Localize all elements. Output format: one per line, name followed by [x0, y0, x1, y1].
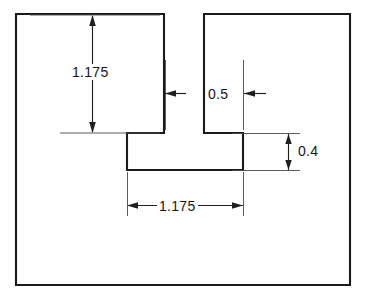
dim-arrow-pocket-depth-bottom: [285, 160, 291, 170]
dim-arrow-slot-width-left: [165, 90, 176, 97]
dimension-label-pocket-width: 1.175: [157, 198, 198, 214]
dim-arrow-slot-height-top: [89, 15, 96, 26]
dim-arrow-pocket-depth-top: [285, 134, 291, 144]
dimension-label-pocket-depth: 0.4: [296, 143, 320, 159]
dim-arrow-slot-width-right: [244, 90, 255, 97]
dimension-label-slot-width: 0.5: [206, 86, 230, 102]
dim-arrow-slot-height-bottom: [89, 122, 96, 133]
dimension-label-slot-height: 1.175: [70, 64, 111, 80]
technical-drawing-canvas: 1.175 0.5 0.4 1.175: [0, 0, 367, 298]
dim-arrow-pocket-width-right: [232, 202, 243, 209]
dim-arrow-pocket-width-left: [127, 202, 138, 209]
